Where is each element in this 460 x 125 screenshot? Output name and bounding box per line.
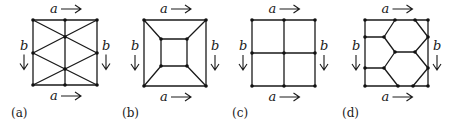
down-arrow-icon bbox=[239, 55, 247, 70]
vertex-dot bbox=[313, 18, 317, 22]
edge-line bbox=[144, 66, 161, 86]
right-arrow-icon bbox=[280, 93, 300, 101]
edge-label-a-bottom: a bbox=[382, 89, 390, 104]
right-arrow-icon bbox=[171, 5, 191, 13]
panel-caption: (b) bbox=[122, 106, 139, 120]
edge-line bbox=[415, 52, 428, 68]
vertex-dot bbox=[363, 66, 367, 70]
down-arrow-icon bbox=[211, 55, 219, 70]
vertex-dot bbox=[204, 84, 208, 88]
edge-label-b-right: b bbox=[102, 38, 110, 53]
panel-caption: (d) bbox=[342, 106, 359, 120]
vertex-dot bbox=[282, 84, 286, 88]
vertex-dot bbox=[63, 18, 67, 22]
edge-label-b-left: b bbox=[239, 38, 247, 53]
edge-line bbox=[384, 37, 395, 52]
down-arrow-icon bbox=[433, 55, 441, 70]
vertex-dot bbox=[31, 83, 35, 87]
panel-caption: (c) bbox=[232, 106, 248, 120]
vertex-dot bbox=[426, 35, 430, 39]
down-arrow-icon bbox=[20, 55, 28, 70]
vertex-dot bbox=[313, 51, 317, 55]
panel-a: aabb(a) bbox=[11, 1, 110, 120]
right-arrow-icon bbox=[393, 5, 413, 13]
vertex-dot bbox=[382, 35, 386, 39]
down-arrow-icon bbox=[352, 55, 360, 70]
vertex-dot bbox=[413, 50, 417, 54]
vertex-dot bbox=[426, 66, 430, 70]
edge-line bbox=[384, 52, 395, 68]
vertex-dot bbox=[313, 84, 317, 88]
vertex-dot bbox=[185, 64, 189, 68]
edge-label-a-top: a bbox=[382, 1, 390, 16]
edge-line bbox=[384, 20, 395, 37]
edge-label-a-bottom: a bbox=[160, 89, 168, 104]
vertex-dot bbox=[363, 35, 367, 39]
vertex-dot bbox=[250, 51, 254, 55]
edge-label-b-right: b bbox=[211, 38, 219, 53]
vertex-dot bbox=[393, 50, 397, 54]
down-arrow-icon bbox=[102, 55, 110, 70]
vertex-dot bbox=[363, 18, 367, 22]
edge-line bbox=[415, 20, 428, 37]
vertex-dot bbox=[382, 66, 386, 70]
vertex-dot bbox=[282, 51, 286, 55]
panel-d: aabb(d) bbox=[342, 1, 441, 120]
vertex-dot bbox=[95, 18, 99, 22]
vertex-dot bbox=[142, 18, 146, 22]
vertex-dot bbox=[396, 84, 400, 88]
vertex-dot bbox=[282, 18, 286, 22]
edge-label-b-left: b bbox=[131, 38, 139, 53]
edge-label-b-left: b bbox=[20, 38, 28, 53]
right-arrow-icon bbox=[61, 92, 81, 100]
right-arrow-icon bbox=[280, 5, 300, 13]
panel-c: aabb(c) bbox=[232, 1, 328, 120]
edge-label-a-top: a bbox=[269, 1, 277, 16]
vertex-dot bbox=[411, 84, 415, 88]
edge-label-b-right: b bbox=[320, 38, 328, 53]
figure-canvas: aabb(a)aabb(b)aabb(c)aabb(d) bbox=[0, 0, 460, 125]
edge-line bbox=[144, 20, 161, 39]
vertex-dot bbox=[426, 18, 430, 22]
edge-line bbox=[187, 66, 206, 86]
edge-label-a-bottom: a bbox=[269, 89, 277, 104]
vertex-dot bbox=[250, 84, 254, 88]
edge-label-a-top: a bbox=[50, 1, 58, 16]
edge-line bbox=[415, 37, 428, 52]
vertex-dot bbox=[250, 18, 254, 22]
vertex-dot bbox=[159, 37, 163, 41]
vertex-dot bbox=[142, 84, 146, 88]
vertex-dot bbox=[95, 51, 99, 55]
vertex-dot bbox=[63, 67, 67, 71]
vertex-dot bbox=[363, 84, 367, 88]
vertex-dot bbox=[426, 84, 430, 88]
down-arrow-icon bbox=[320, 55, 328, 70]
panel-caption: (a) bbox=[11, 106, 28, 120]
edge-label-a-bottom: a bbox=[50, 88, 58, 103]
vertex-dot bbox=[413, 18, 417, 22]
vertex-dot bbox=[31, 18, 35, 22]
edge-line bbox=[413, 68, 428, 86]
right-arrow-icon bbox=[393, 93, 413, 101]
edge-line bbox=[187, 20, 206, 39]
vertex-dot bbox=[204, 18, 208, 22]
vertex-dot bbox=[159, 64, 163, 68]
right-arrow-icon bbox=[61, 5, 81, 13]
vertex-dot bbox=[31, 51, 35, 55]
vertex-dot bbox=[185, 37, 189, 41]
vertex-dot bbox=[63, 83, 67, 87]
vertex-dot bbox=[393, 18, 397, 22]
vertex-dot bbox=[95, 83, 99, 87]
right-arrow-icon bbox=[171, 93, 191, 101]
edge-label-b-left: b bbox=[352, 38, 360, 53]
edge-line bbox=[384, 68, 398, 86]
panel-b: aabb(b) bbox=[122, 1, 219, 120]
edge-label-a-top: a bbox=[160, 1, 168, 16]
vertex-dot bbox=[63, 35, 67, 39]
edge-label-b-right: b bbox=[433, 38, 441, 53]
down-arrow-icon bbox=[131, 55, 139, 70]
